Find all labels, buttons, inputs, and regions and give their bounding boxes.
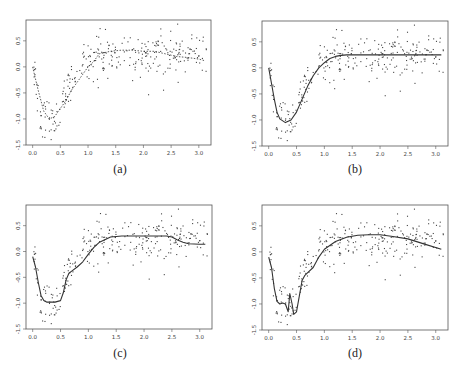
x-tick-label: 1.0 (84, 334, 93, 340)
x-tick-label: 2.0 (376, 151, 385, 157)
y-tick-label: 0.5 (251, 37, 257, 46)
scatter-points (33, 209, 208, 325)
caption-a: (a) (100, 162, 140, 177)
x-tick-label: 1.5 (348, 335, 357, 341)
x-tick-label: 2.5 (168, 334, 177, 340)
x-tick-label: 2.0 (376, 335, 385, 341)
y-tick-label: -1.5 (251, 140, 257, 151)
x-tick-label: 1.0 (320, 151, 329, 157)
y-tick-label: -1.5 (251, 324, 257, 335)
fitted-curve (33, 236, 206, 302)
x-tick-label: 3.0 (195, 334, 204, 340)
x-tick-label: 2.5 (404, 151, 413, 157)
y-tick-label: 0.5 (15, 36, 21, 45)
y-tick-label: 0.5 (15, 221, 21, 230)
x-tick-label: 0.0 (264, 151, 273, 157)
scatter-points (33, 24, 207, 141)
x-tick-label: 2.0 (139, 150, 148, 156)
y-tick-label: -1.0 (15, 113, 21, 124)
y-tick-label: -1.0 (251, 114, 257, 125)
y-tick-label: 0.5 (251, 221, 257, 230)
x-tick-label: 1.5 (111, 150, 120, 156)
y-tick-label: -1.0 (15, 297, 21, 308)
fitted-curve (33, 50, 205, 119)
plot-frame (26, 20, 211, 145)
scatter-points (269, 209, 444, 326)
x-tick-label: 0.5 (292, 335, 301, 341)
y-tick-label: -0.5 (15, 87, 21, 98)
x-tick-label: 1.0 (320, 335, 329, 341)
y-tick-label: -1.0 (251, 298, 257, 309)
y-tick-label: -1.5 (15, 323, 21, 334)
fitted-curve (269, 55, 442, 123)
x-tick-label: 0.0 (264, 335, 273, 341)
y-tick-label: 0.0 (251, 247, 257, 256)
x-tick-label: 2.5 (167, 150, 176, 156)
x-tick-label: 3.0 (194, 150, 203, 156)
plot-frame (26, 205, 212, 329)
y-tick-label: -0.5 (251, 88, 257, 99)
x-tick-label: 0.5 (56, 334, 65, 340)
x-tick-label: 2.0 (140, 334, 149, 340)
y-tick-label: -0.5 (15, 271, 21, 282)
y-tick-label: 0.0 (251, 63, 257, 72)
x-tick-label: 0.5 (56, 150, 65, 156)
y-tick-label: 0.0 (15, 247, 21, 256)
y-tick-label: -0.5 (251, 272, 257, 283)
x-tick-label: 3.0 (431, 151, 440, 157)
x-tick-label: 1.5 (112, 334, 121, 340)
caption-b: (b) (335, 162, 375, 177)
plot-frame (262, 21, 448, 146)
plot-frame (262, 205, 448, 330)
x-tick-label: 1.5 (348, 151, 357, 157)
x-tick-label: 0.0 (28, 334, 37, 340)
y-tick-label: -1.5 (15, 139, 21, 150)
caption-d: (d) (335, 346, 375, 361)
caption-c: (c) (100, 346, 140, 361)
x-tick-label: 1.0 (84, 150, 93, 156)
x-tick-label: 0.0 (28, 150, 37, 156)
x-tick-label: 3.0 (431, 335, 440, 341)
x-tick-label: 0.5 (292, 151, 301, 157)
scatter-points (269, 25, 444, 142)
y-tick-label: 0.0 (15, 62, 21, 71)
x-tick-label: 2.5 (404, 335, 413, 341)
